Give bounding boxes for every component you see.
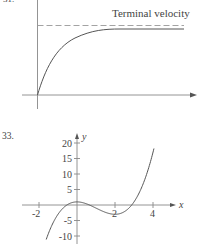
y-axis-arrow-icon (75, 133, 79, 139)
x-axis-arrow-icon (170, 203, 176, 207)
x-tick-label: 2 (112, 208, 117, 219)
x-axis-label: x (178, 199, 184, 210)
y-tick-label: -5 (64, 215, 72, 226)
y-tick-label: 15 (62, 153, 72, 164)
y-tick-label: -10 (59, 231, 72, 242)
y-tick-label: 5 (67, 184, 72, 195)
terminal-velocity-label: Terminal velocity (112, 7, 190, 19)
figure-canvas: 31. Terminal velocity 33. x y -2 2 4 (0, 0, 202, 244)
y-axis-label: y (81, 131, 87, 142)
velocity-curve (38, 29, 185, 95)
x-tick-label: -2 (32, 208, 40, 219)
y-tick-label: 20 (62, 138, 72, 149)
x-axis-arrow-icon (190, 93, 197, 98)
cubic-graph: 33. x y -2 2 4 20 15 10 5 -5 (2, 131, 184, 244)
terminal-velocity-graph: 31. Terminal velocity (3, 0, 197, 109)
y-tick-label: 10 (62, 169, 72, 180)
graph-number-label: 33. (2, 131, 14, 141)
graph-number-label: 31. (3, 0, 14, 4)
x-tick-label: 4 (150, 208, 155, 219)
